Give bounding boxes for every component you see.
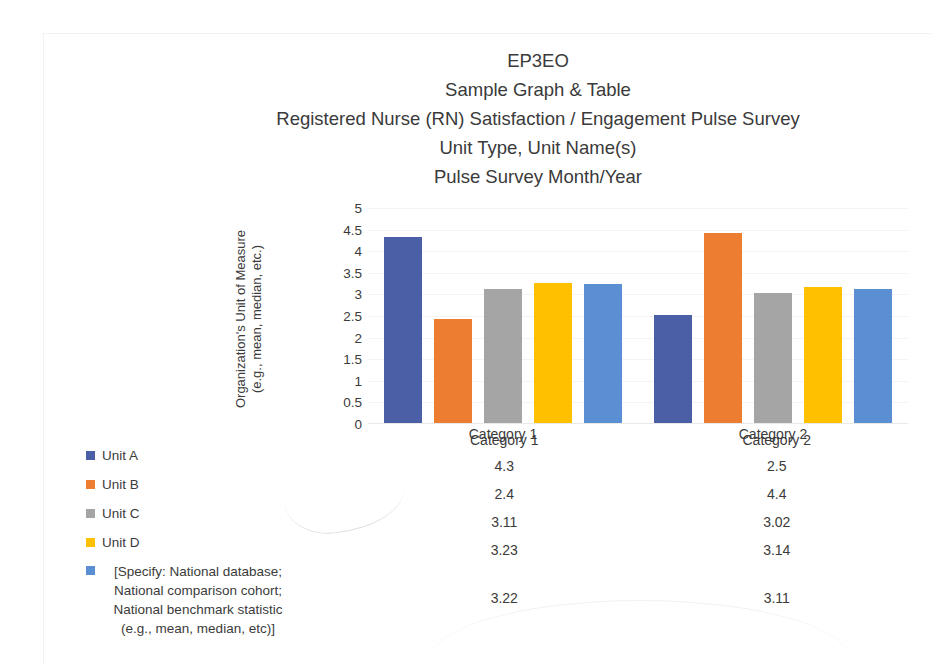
legend-item[interactable]: Unit D xyxy=(86,533,301,552)
bar xyxy=(804,287,842,423)
legend-item-label: Unit D xyxy=(102,533,140,552)
legend-item[interactable]: Unit C xyxy=(86,504,301,523)
bar-chart: Organization's Unit of Measure (e.g., me… xyxy=(236,208,908,430)
y-axis-tick-labels: 54.543.532.521.510.50 xyxy=(270,208,362,424)
gridline xyxy=(368,251,908,252)
legend-item[interactable]: [Specify: National database; National co… xyxy=(86,562,301,638)
title-line-4: Unit Type, Unit Name(s) xyxy=(243,133,833,162)
y-axis-tick: 2 xyxy=(270,330,362,345)
table-cell: 4.4 xyxy=(641,480,914,508)
table-row: 3.233.14 xyxy=(368,536,913,564)
y-axis-tick: 3 xyxy=(270,287,362,302)
legend-swatch-icon xyxy=(86,566,95,575)
table-cell: 4.3 xyxy=(368,452,641,480)
table-cell: 2.4 xyxy=(368,480,641,508)
bar xyxy=(434,319,472,423)
y-axis-title-line-1: Organization's Unit of Measure xyxy=(233,230,249,408)
y-axis-tick: 0.5 xyxy=(270,395,362,410)
chart-legend: Unit AUnit BUnit CUnit D[Specify: Nation… xyxy=(86,446,301,648)
gridline xyxy=(368,208,908,209)
title-line-1: EP3EO xyxy=(243,46,833,75)
bar xyxy=(584,284,622,423)
y-axis-tick: 4.5 xyxy=(270,222,362,237)
table-cell: 3.14 xyxy=(641,536,914,564)
table-header-row: Category 1 Category 2 xyxy=(368,428,913,452)
legend-item-label: Unit C xyxy=(102,504,140,523)
table-row: 3.223.11 xyxy=(368,584,913,612)
y-axis-tick: 0 xyxy=(270,417,362,432)
bar xyxy=(754,293,792,423)
table-row: 4.32.5 xyxy=(368,452,913,480)
bar xyxy=(484,289,522,423)
plot-area xyxy=(368,208,908,424)
legend-item[interactable]: Unit A xyxy=(86,446,301,465)
bar xyxy=(384,237,422,423)
table-column-header: Category 2 xyxy=(641,428,914,452)
bar xyxy=(654,315,692,423)
y-axis-tick: 5 xyxy=(270,201,362,216)
chart-title-block: EP3EO Sample Graph & Table Registered Nu… xyxy=(243,46,833,191)
legend-item-label: Unit B xyxy=(102,475,139,494)
legend-swatch-icon xyxy=(86,538,95,547)
table-cell: 3.02 xyxy=(641,508,914,536)
y-axis-tick: 3.5 xyxy=(270,265,362,280)
legend-item-label: Unit A xyxy=(102,446,138,465)
title-line-3: Registered Nurse (RN) Satisfaction / Eng… xyxy=(243,104,833,133)
table-cell: 3.11 xyxy=(368,508,641,536)
gridline xyxy=(368,230,908,231)
legend-item[interactable]: Unit B xyxy=(86,475,301,494)
y-axis-title: Organization's Unit of Measure (e.g., me… xyxy=(232,0,262,208)
bar xyxy=(704,233,742,423)
legend-item-label: [Specify: National database; National co… xyxy=(100,562,296,638)
legend-swatch-icon xyxy=(86,480,95,489)
table-column-header: Category 1 xyxy=(368,428,641,452)
table-cell: 3.11 xyxy=(641,584,914,612)
legend-swatch-icon xyxy=(86,451,95,460)
y-axis-tick: 1 xyxy=(270,373,362,388)
bar xyxy=(854,289,892,423)
y-axis-tick: 4 xyxy=(270,244,362,259)
data-table: Category 1 Category 2 4.32.52.44.43.113.… xyxy=(368,428,913,612)
y-axis-title-line-2: (e.g., mean, median, etc.) xyxy=(249,245,265,393)
title-line-5: Pulse Survey Month/Year xyxy=(243,162,833,191)
table-cell: 2.5 xyxy=(641,452,914,480)
gridline xyxy=(368,273,908,274)
table-row-spacer xyxy=(368,564,913,584)
table-row: 2.44.4 xyxy=(368,480,913,508)
y-axis-tick: 1.5 xyxy=(270,352,362,367)
table-cell: 3.23 xyxy=(368,536,641,564)
table-row: 3.113.02 xyxy=(368,508,913,536)
legend-swatch-icon xyxy=(86,509,95,518)
bar xyxy=(534,283,572,423)
title-line-2: Sample Graph & Table xyxy=(243,75,833,104)
table-cell: 3.22 xyxy=(368,584,641,612)
y-axis-tick: 2.5 xyxy=(270,309,362,324)
